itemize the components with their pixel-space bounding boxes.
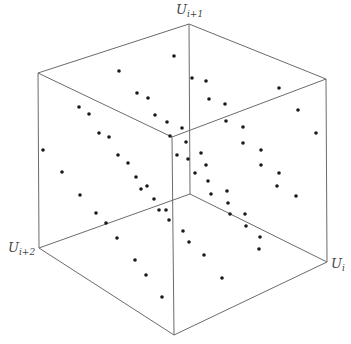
data-point [199,151,203,155]
cube-edges [38,24,327,335]
axis-label-u-i-plus-2: Ui+2 [8,240,35,257]
data-point [104,221,108,225]
cube-edge [38,24,189,73]
axis-label-u-i-plus-1: Ui+1 [176,2,203,19]
data-point [144,273,148,277]
data-point [258,235,262,239]
data-point [209,192,213,196]
data-point [164,208,168,212]
cube-edge [172,79,326,137]
data-point [294,194,298,198]
data-point [193,171,197,175]
cube-edge [174,262,327,335]
cube-edge [190,194,327,262]
data-point [134,175,138,179]
data-point [94,211,98,215]
cube-edge [172,137,174,335]
data-point [168,134,172,138]
data-point [160,295,164,299]
data-point [243,212,247,216]
data-point [135,91,139,95]
data-point [202,253,206,257]
data-point [139,187,143,191]
cube-edge [189,24,190,194]
data-point [60,170,64,174]
data-point [223,102,227,106]
data-point [204,79,208,83]
data-point [259,163,263,167]
cube-scatter-plot [0,0,351,344]
data-point [146,96,150,100]
data-point [241,141,245,145]
cube-edge [326,79,327,262]
data-point [157,208,161,212]
data-point [277,171,281,175]
cube-edge [39,248,174,335]
data-point [314,131,318,135]
data-point [41,148,45,152]
data-point [275,184,279,188]
data-point [244,224,248,228]
data-point [153,113,157,117]
data-point [117,69,121,73]
data-point [259,148,263,152]
data-point [181,229,185,233]
data-point [115,236,119,240]
data-point [165,120,169,124]
data-point [206,179,210,183]
cube-edge [38,73,172,137]
data-point [296,108,300,112]
data-point [180,126,184,130]
data-point [187,240,191,244]
data-point [204,163,208,167]
data-point [277,86,281,90]
data-point [116,153,120,157]
data-point [133,258,137,262]
data-point [226,201,230,205]
data-point [228,212,232,216]
data-point [175,153,179,157]
data-point [241,125,245,129]
cube-edge [39,194,190,248]
cube-edge [189,24,326,79]
data-point [145,184,149,188]
data-point [126,161,130,165]
data-point [257,247,261,251]
data-point [167,218,171,222]
data-point [224,119,228,123]
data-point [172,54,176,58]
data-point [87,112,91,116]
data-point [107,135,111,139]
data-point [97,131,101,135]
data-point [184,140,188,144]
cube-edge [38,73,39,248]
data-point [152,197,156,201]
axis-label-u-i: Ui [331,256,345,273]
data-points [41,54,318,299]
data-point [190,76,194,80]
data-point [77,105,81,109]
data-point [225,189,229,193]
data-point [186,157,190,161]
data-point [78,193,82,197]
data-point [207,97,211,101]
data-point [220,276,224,280]
